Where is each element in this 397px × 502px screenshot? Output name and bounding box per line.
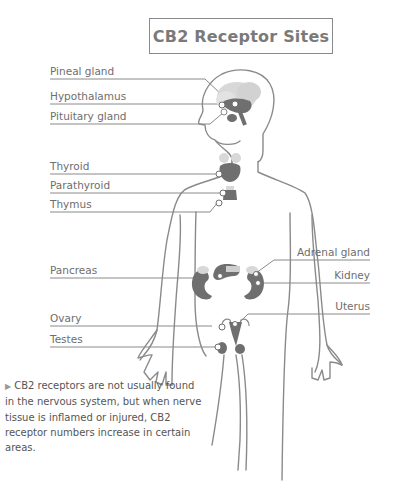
caption: ▶CB2 receptors are not usually found in … [5, 378, 205, 455]
label-uterus: Uterus [335, 300, 370, 312]
label-adrenal-gland: Adrenal gland [297, 246, 370, 258]
label-thyroid: Thyroid [50, 160, 89, 172]
leader-uterus [240, 314, 370, 322]
label-pineal-gland: Pineal gland [50, 65, 114, 77]
label-parathyroid: Parathyroid [50, 179, 110, 191]
caption-marker-icon: ▶ [5, 382, 11, 391]
right-leg [242, 355, 247, 470]
thyroid-organ [216, 153, 241, 182]
thymus-organ [216, 186, 237, 206]
label-hypothalamus: Hypothalamus [50, 90, 126, 102]
label-pancreas: Pancreas [50, 264, 97, 276]
body-outline-right [258, 162, 342, 365]
left-leg [212, 355, 224, 445]
pancreas-organ [213, 264, 240, 280]
label-ovary: Ovary [50, 312, 81, 324]
right-hand [312, 345, 342, 380]
caption-text: CB2 receptors are not usually found in t… [5, 380, 201, 453]
testes-organ [215, 342, 245, 354]
label-pituitary-gland: Pituitary gland [50, 110, 126, 122]
brain [216, 82, 261, 125]
label-testes: Testes [50, 333, 83, 345]
uterus-ovary-organ [219, 319, 249, 346]
label-thymus: Thymus [50, 198, 92, 210]
label-kidney: Kidney [334, 269, 370, 281]
body-outline-left [140, 160, 232, 360]
